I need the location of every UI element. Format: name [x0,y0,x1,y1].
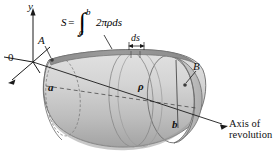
axis-of-revolution-arrowhead [220,125,228,130]
formula-integrand: 2πρds [96,16,122,28]
y-axis-label: y [28,1,33,13]
z-axis-arrowhead [8,80,15,85]
ds-label: ds [131,33,140,44]
surface-of-revolution-figure: y 0 A B a b ρ ds Axis of revolution S = … [0,0,277,161]
radius-a-label: a [48,82,54,94]
point-b-label: B [193,61,200,73]
origin-label: 0 [8,52,14,64]
radius-b-label: b [172,119,178,131]
point-a-marker [50,58,54,62]
axis-of-revolution-line1: Axis of [229,118,272,129]
formula-lhs: S [61,16,67,28]
barrel-outline [44,49,206,147]
surface-area-formula: S = b ∫ a 2πρds [61,8,122,36]
point-a-label: A [38,35,45,47]
integral-lower-limit: a [79,27,84,37]
point-b-marker [183,83,187,87]
axis-of-revolution-label: Axis of revolution [229,118,272,140]
leader-point-a [45,46,51,58]
integral-group: b ∫ a [77,8,93,36]
axis-of-revolution-line2: revolution [229,129,272,140]
z-axis-line [12,62,33,80]
integral-upper-limit: b [86,7,91,17]
axis-stub-upper-right [33,47,50,62]
leader-formula-to-band [104,35,112,49]
rho-label: ρ [138,81,144,93]
formula-equals: = [68,16,75,28]
solid-of-revolution-body [43,49,206,150]
